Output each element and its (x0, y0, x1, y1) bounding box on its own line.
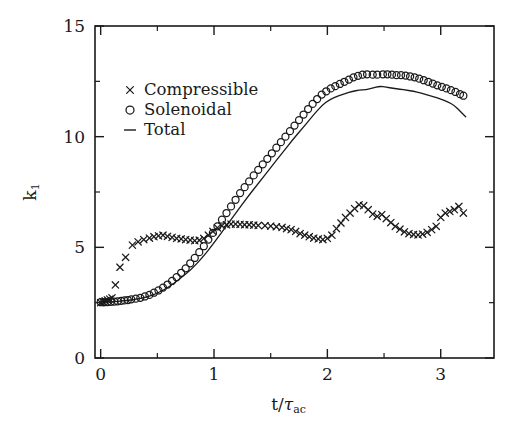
y-tick-label: 5 (74, 237, 85, 257)
legend-circle-icon (126, 106, 134, 114)
x-tick-label: 3 (435, 364, 446, 384)
y-tick-label: 0 (74, 348, 85, 368)
solenoidal-point (438, 83, 445, 90)
x-tick-label: 1 (209, 364, 220, 384)
solenoidal-point (173, 274, 180, 281)
solenoidal-point (434, 82, 441, 89)
plot-canvas: 0123051015 CompressibleSolenoidalTotal t… (0, 0, 514, 429)
x-tick-label: 0 (95, 364, 106, 384)
compressible-point (338, 220, 344, 226)
axis-ticks (95, 26, 494, 358)
legend-item: Compressible (127, 80, 259, 99)
compressible-point (279, 224, 285, 230)
solenoidal-point (425, 78, 432, 85)
x-tick-label: 2 (322, 364, 333, 384)
solenoidal-point (178, 269, 185, 276)
compressible-point (164, 233, 170, 239)
compressible-point (460, 210, 466, 216)
solenoidal-point (420, 77, 427, 84)
solenoidal-point (416, 75, 423, 82)
plot-box (95, 26, 494, 358)
compressible-point (320, 236, 326, 242)
compressible-point (329, 232, 335, 238)
x-axis-title: t/τac (271, 394, 306, 416)
solenoidal-point (411, 74, 418, 81)
y-axis-title: k1 (20, 183, 42, 200)
compressible-point (117, 264, 123, 270)
legend-label: Total (144, 120, 185, 139)
compressible-point (122, 254, 128, 260)
legend-item: Solenoidal (126, 100, 232, 119)
solenoidal-point (429, 80, 436, 87)
solenoidal-point (232, 196, 239, 203)
compressible-point (333, 225, 339, 231)
compressible-point (141, 236, 147, 242)
solenoidal-point (228, 203, 235, 210)
compressible-point (112, 282, 118, 288)
legend-label: Solenoidal (144, 100, 232, 119)
solenoidal-point (443, 85, 450, 92)
solenoidal-point (223, 210, 230, 217)
y-tick-label: 10 (63, 127, 85, 147)
compressible-point (160, 232, 166, 238)
y-tick-label: 15 (63, 16, 85, 36)
compressible-point (324, 235, 330, 241)
compressible-point (169, 234, 175, 240)
legend: CompressibleSolenoidalTotal (124, 80, 258, 139)
plot-frame (95, 26, 494, 358)
axis-titles: t/τack1 (20, 183, 306, 416)
series-compressible (97, 202, 466, 306)
compressible-point (146, 235, 152, 241)
legend-item: Total (124, 120, 185, 139)
solenoidal-point (314, 96, 321, 103)
compressible-point (283, 225, 289, 231)
legend-label: Compressible (144, 80, 258, 99)
compressible-point (255, 222, 261, 228)
solenoidal-point (200, 243, 207, 250)
compressible-point (456, 203, 462, 209)
figure-container: 0123051015 CompressibleSolenoidalTotal t… (0, 0, 514, 429)
solenoidal-point (447, 87, 454, 94)
compressible-point (433, 223, 439, 229)
